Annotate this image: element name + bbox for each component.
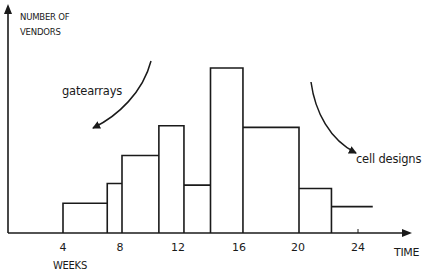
y-axis-label-line2: VENDORS [20, 25, 70, 40]
x-tick-label: 20 [291, 241, 305, 254]
x-axis-units-label: WEEKS [53, 260, 87, 271]
x-tick-label: 4 [60, 241, 67, 254]
annotation-gatearrays: gatearrays [62, 84, 122, 98]
x-axis-arrow-icon [402, 229, 412, 237]
y-axis-label: NUMBER OF VENDORS [20, 10, 70, 40]
x-tick-label: 16 [232, 241, 246, 254]
histogram-chart [0, 0, 436, 276]
y-axis-arrow-icon [4, 4, 12, 14]
annotation-cell-designs: cell designs [356, 152, 421, 166]
x-tick-label: 12 [171, 241, 185, 254]
cell-designs-arrow-icon [311, 82, 356, 153]
x-tick-label: 8 [117, 241, 124, 254]
x-axis-label: TIME [394, 246, 419, 259]
x-tick-label: 24 [351, 241, 365, 254]
y-axis-label-line1: NUMBER OF [20, 10, 70, 25]
